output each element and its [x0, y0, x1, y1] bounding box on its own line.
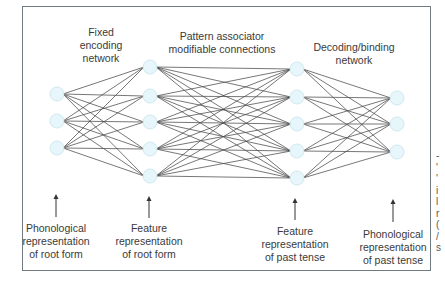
label-line: of past tense	[359, 254, 426, 267]
connections	[63, 67, 391, 178]
label-pattern-associator: Pattern associator modifiable connection…	[169, 30, 276, 56]
connection-line	[303, 69, 391, 98]
caption-fragment: /	[436, 231, 445, 243]
node-phonological-root	[50, 114, 64, 128]
connection-line	[63, 148, 144, 149]
connection-line	[156, 67, 291, 97]
pointer-arrows	[54, 194, 396, 222]
connection-line	[156, 96, 291, 97]
label-line: representation	[261, 238, 328, 251]
caption-fragment: i	[436, 185, 445, 197]
label-phonological-past-tense: Phonological representation of past tens…	[359, 228, 426, 267]
node-phonological-root	[50, 87, 64, 101]
connection-line	[63, 67, 144, 94]
caption-fragment: '	[436, 173, 445, 185]
label-line: modifiable connections	[169, 43, 276, 56]
label-fixed-encoding-network: Fixed encoding network	[80, 26, 123, 65]
label-line: network	[80, 52, 123, 65]
caption-fragment: -	[436, 150, 445, 162]
label-line: network	[313, 54, 394, 67]
label-line: Feature	[261, 225, 328, 238]
label-line: representation	[22, 235, 89, 248]
caption-fragment: l	[436, 196, 445, 208]
clipped-margin-caption: - ' ' i l r ( / s	[436, 150, 445, 254]
node-feature-past	[290, 117, 304, 131]
node-feature-past	[290, 62, 304, 76]
connection-line	[156, 69, 291, 96]
node-phonological-past	[390, 91, 404, 105]
connection-line	[303, 152, 391, 178]
connection-line	[303, 97, 391, 98]
connection-line	[156, 97, 291, 149]
connection-line	[156, 96, 291, 124]
up-arrow-icon	[293, 198, 298, 220]
up-arrow-icon	[54, 194, 59, 217]
connection-line	[156, 69, 291, 122]
connection-line	[156, 124, 291, 176]
caption-fragment: (	[436, 219, 445, 231]
caption-fragment: '	[436, 162, 445, 174]
caption-fragment: r	[436, 208, 445, 220]
node-feature-root	[143, 60, 157, 74]
label-line: Pattern associator	[169, 30, 276, 43]
node-feature-root	[143, 142, 157, 156]
label-line: representation	[359, 241, 426, 254]
label-line: Fixed	[80, 26, 123, 39]
label-line: of root form	[115, 248, 182, 261]
node-feature-past	[290, 171, 304, 185]
label-line: of past tense	[261, 251, 328, 264]
node-feature-root	[143, 115, 157, 129]
label-line: Feature	[115, 222, 182, 235]
connection-line	[303, 69, 391, 124]
label-decoding-binding-network: Decoding/binding network	[313, 41, 394, 67]
connection-line	[63, 148, 144, 176]
node-feature-past	[290, 144, 304, 158]
node-feature-root	[143, 89, 157, 103]
label-line: representation	[115, 235, 182, 248]
node-feature-root	[143, 169, 157, 183]
label-feature-root-form: Feature representation of root form	[115, 222, 182, 261]
label-phonological-root-form: Phonological representation of root form	[22, 222, 89, 261]
connection-line	[63, 67, 144, 148]
connection-line	[156, 176, 291, 178]
node-phonological-past	[390, 145, 404, 159]
connection-line	[156, 151, 291, 176]
node-phonological-past	[390, 117, 404, 131]
label-line: Phonological	[359, 228, 426, 241]
caption-fragment: s	[436, 242, 445, 254]
node-phonological-root	[50, 141, 64, 155]
label-line: Phonological	[22, 222, 89, 235]
connection-line	[156, 67, 291, 69]
label-line: encoding	[80, 39, 123, 52]
connection-line	[303, 98, 391, 151]
node-feature-past	[290, 90, 304, 104]
up-arrow-icon	[391, 199, 396, 222]
connection-line	[156, 97, 291, 122]
connection-line	[63, 96, 144, 121]
label-line: Decoding/binding	[313, 41, 394, 54]
connection-line	[63, 122, 144, 148]
up-arrow-icon	[147, 196, 152, 218]
label-line: of root form	[22, 248, 89, 261]
label-feature-past-tense: Feature representation of past tense	[261, 225, 328, 264]
